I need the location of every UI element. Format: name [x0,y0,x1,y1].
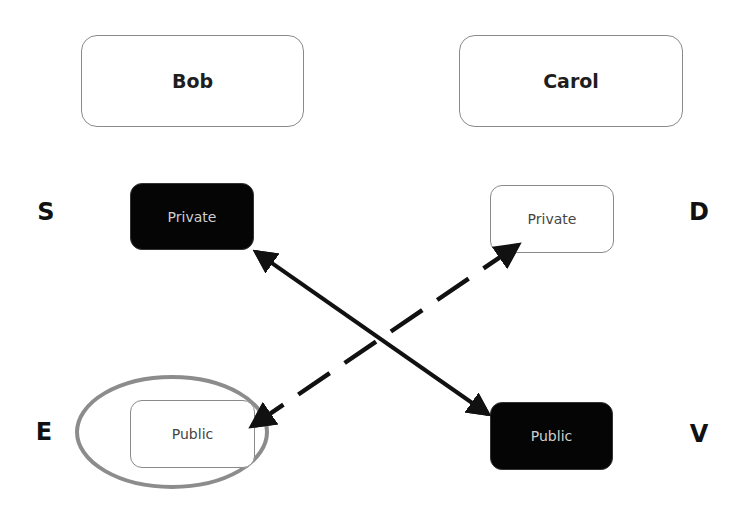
letter-e: E [36,418,52,446]
letter-d: D [689,198,709,226]
letter-s: S [37,198,54,226]
letter-v: V [690,420,709,448]
arrowheads-overlay [0,0,741,509]
